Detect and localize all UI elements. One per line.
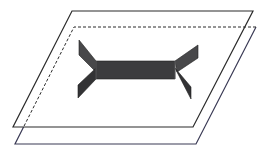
two-planes-diagram <box>0 0 270 157</box>
fin-right-upper <box>175 45 198 72</box>
fin-right-lower <box>175 68 191 99</box>
diagram-canvas <box>0 0 270 157</box>
h-shaped-solid <box>78 40 198 99</box>
central-bar <box>96 61 175 79</box>
fin-left-upper <box>79 40 96 72</box>
fin-left-lower <box>78 68 96 98</box>
